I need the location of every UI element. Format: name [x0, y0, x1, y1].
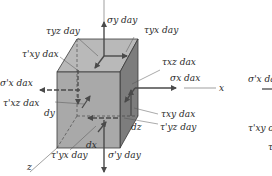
label-axis-z: z: [26, 162, 32, 172]
label-sigma-x-prime: σ'x dax: [0, 78, 33, 88]
label-dy: dy: [44, 108, 56, 118]
label-tau-xy: τxy dax: [161, 109, 195, 119]
label-tau-yx: τyx day: [144, 25, 179, 35]
label-dx: dx: [86, 140, 97, 150]
right-tau-fragment: τ: [268, 142, 272, 152]
label-tau-xz: τxz dax: [162, 57, 196, 67]
label-sigma-y: σy day: [107, 15, 138, 25]
label-tau-yx-prime: τ'yx day: [51, 150, 89, 160]
label-tau-xz-prime: τ'xz dax: [3, 98, 39, 108]
label-tau-yz: τyz day: [46, 26, 81, 36]
label-axis-x: x: [219, 83, 224, 93]
label-tau-xy-prime: τ'xy dax: [22, 49, 59, 59]
label-dz: dz: [131, 122, 142, 132]
label-tau-yz-prime: τ'yz day: [160, 122, 197, 132]
cube-front-face: [57, 72, 120, 148]
label-right-sigma-x-prime: σ'x da: [248, 74, 272, 84]
label-sigma-y-prime: σ'y day: [108, 150, 142, 160]
label-right-tau-xy-prime: τ'xy da: [248, 123, 272, 133]
label-sigma-x: σx dax: [170, 73, 200, 83]
stress-element-diagram: σy day τyx day τyz day τ'xy dax τxz dax …: [0, 0, 272, 176]
